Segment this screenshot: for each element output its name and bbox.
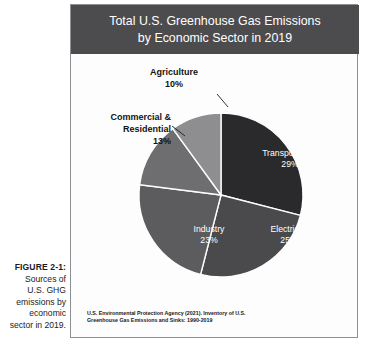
slice-label-commercial-residential-line2: Residential <box>75 124 171 136</box>
chart-source-line: U.S. Environmental Protection Agency (20… <box>87 310 245 317</box>
slice-label-electricity-name: Electricity <box>270 224 307 234</box>
figure-caption-line: sector in 2019. <box>0 320 66 332</box>
figure-caption-line: economic <box>0 308 66 320</box>
slice-label-transportation-value: 29% <box>244 159 336 170</box>
figure-caption-line: U.S. GHG <box>0 285 66 297</box>
figure-caption: FIGURE 2-1: Sources of U.S. GHG emission… <box>0 262 66 332</box>
chart-title-line: by Economic Sector in 2019 <box>138 30 292 47</box>
figure-number: FIGURE 2-1: <box>0 262 66 274</box>
slice-label-agriculture: Agriculture 10% <box>131 67 217 91</box>
slice-label-commercial-residential-line1: Commercial & <box>75 112 171 124</box>
slice-label-agriculture-name: Agriculture <box>131 67 217 79</box>
chart-panel: Total U.S. Greenhouse Gas Emissions by E… <box>70 4 358 338</box>
figure-caption-line: Sources of <box>0 274 66 286</box>
slice-label-commercial-residential: Commercial & Residential 13% <box>75 112 171 147</box>
chart-source-note: U.S. Environmental Protection Agency (20… <box>87 310 245 325</box>
slice-label-transportation-name: Transportation <box>262 148 318 158</box>
slice-label-transportation: Transportation 29% <box>244 148 336 170</box>
slice-label-industry-name: Industry <box>194 224 225 234</box>
leader-line-agriculture <box>217 94 228 107</box>
slice-label-industry-value: 23% <box>171 235 247 246</box>
chart-title-bar: Total U.S. Greenhouse Gas Emissions by E… <box>71 5 359 54</box>
slice-label-industry: Industry 23% <box>171 224 247 246</box>
chart-source-line: Greenhouse Gas Emissions and Sinks: 1990… <box>87 317 245 324</box>
pie-chart-svg <box>71 54 357 337</box>
slice-label-electricity: Electricity 25% <box>249 224 329 246</box>
pie-chart: Transportation 29% Electricity 25% Indus… <box>71 54 357 337</box>
slice-label-agriculture-value: 10% <box>131 79 217 91</box>
slice-label-commercial-residential-value: 13% <box>75 136 171 148</box>
slice-label-electricity-value: 25% <box>249 235 329 246</box>
chart-title-line: Total U.S. Greenhouse Gas Emissions <box>109 13 320 30</box>
figure-caption-line: emissions by <box>0 297 66 309</box>
